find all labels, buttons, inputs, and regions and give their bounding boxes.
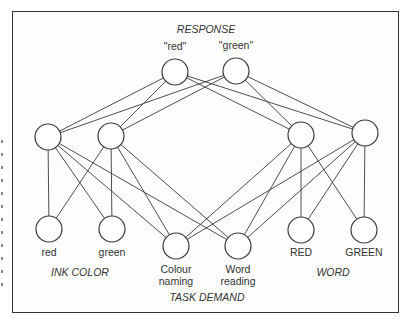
node-hid-r2 xyxy=(352,120,378,146)
node-label-colour-line2: naming xyxy=(159,275,193,287)
edge-resp_green-hid_l1 xyxy=(60,75,223,132)
node-label-colour-naming: Colour naming xyxy=(159,263,193,287)
node-label-word-line2: reading xyxy=(220,275,255,287)
node-label-word-reading: Word reading xyxy=(220,263,255,287)
node-hid-l1 xyxy=(35,124,61,150)
node-hid-l2 xyxy=(98,123,124,149)
edge-hid_r2-task_colour xyxy=(187,140,354,240)
node-task-word xyxy=(225,233,251,259)
edge-resp_red-hid_r2 xyxy=(187,76,352,129)
group-label-task-demand: TASK DEMAND xyxy=(169,291,244,303)
node-ink-red xyxy=(36,216,62,242)
node-ink-green xyxy=(99,216,125,242)
node-label-word-line1: Word xyxy=(220,263,255,275)
group-label-ink-color: INK COLOR xyxy=(51,266,109,278)
node-task-colour xyxy=(163,233,189,259)
group-label-word: WORD xyxy=(316,266,349,278)
edge-hid_r2-word_green xyxy=(364,146,365,217)
edge-hid_l1-task_word xyxy=(59,143,226,239)
node-word-red xyxy=(288,217,314,243)
node-label-colour-line1: Colour xyxy=(159,263,193,275)
node-resp-green xyxy=(223,58,249,84)
node-label-ink-green: green xyxy=(99,246,126,258)
edge-hid_l2-ink_green xyxy=(111,149,112,216)
node-label-word-red: RED xyxy=(290,246,312,258)
edge-resp_green-hid_r2 xyxy=(248,77,354,128)
node-hid-r1 xyxy=(288,122,314,148)
edge-hid_r1-task_colour xyxy=(186,144,292,238)
stroop-network-diagram: RESPONSE "red" "green" red green Colour … xyxy=(0,0,405,321)
node-resp-red xyxy=(162,59,188,85)
edge-hid_r2-word_red xyxy=(308,144,358,219)
edge-hid_l1-ink_red xyxy=(48,150,49,216)
node-word-green xyxy=(351,217,377,243)
node-label-response-red: "red" xyxy=(164,40,187,52)
node-label-ink-red: red xyxy=(41,246,56,258)
node-label-word-green: GREEN xyxy=(345,246,382,258)
edge-hid_l2-task_colour xyxy=(118,147,170,235)
group-label-response: RESPONSE xyxy=(177,23,235,35)
node-label-response-green: "green" xyxy=(219,39,253,51)
edge-hid_l2-task_word xyxy=(121,145,228,238)
